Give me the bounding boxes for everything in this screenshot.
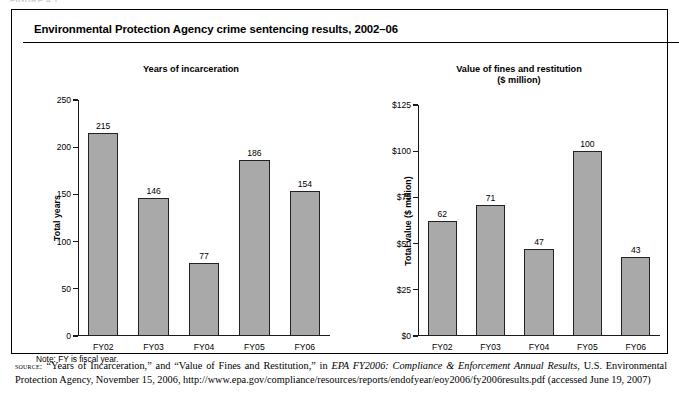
x-tick-label-FY06: FY06 <box>295 342 316 352</box>
figure-source: source: “Years of Incarceration,” and “V… <box>15 359 667 387</box>
bar-value-FY05: 100 <box>580 139 594 149</box>
y-tick-3 <box>413 197 418 198</box>
x-tick-label-FY04: FY04 <box>194 342 215 352</box>
chart-panel-fines: Value of fines and restitution ($ millio… <box>358 50 679 350</box>
bar-FY03 <box>476 205 505 336</box>
y-tick-label-5: $125 <box>392 100 411 110</box>
y-tick-label-0: 0 <box>66 331 71 341</box>
chart-title-left: Years of incarceration <box>26 64 356 75</box>
bar-FY06 <box>290 191 320 336</box>
x-tick-label-FY03: FY03 <box>480 342 501 352</box>
y-tick-0 <box>413 335 418 336</box>
y-axis-line-left <box>78 100 79 336</box>
chart-title-right: Value of fines and restitution ($ millio… <box>358 64 679 85</box>
x-tick-label-FY02: FY02 <box>432 342 453 352</box>
bar-value-FY06: 154 <box>298 179 312 189</box>
y-tick-1 <box>73 288 78 289</box>
y-tick-0 <box>73 335 78 336</box>
plot-area-right: Total value ($ million) $0$25$50$75$100$… <box>418 105 660 336</box>
bar-value-FY03: 71 <box>486 193 496 203</box>
y-tick-label-2: 100 <box>57 237 71 247</box>
y-axis-line-right <box>418 105 419 336</box>
bar-value-FY02: 215 <box>96 121 110 131</box>
bar-value-FY06: 43 <box>631 245 641 255</box>
bar-FY03 <box>138 198 168 336</box>
figure-box: Environmental Protection Agency crime se… <box>11 9 668 354</box>
y-tick-label-1: $25 <box>397 285 411 295</box>
bar-value-FY04: 77 <box>199 251 209 261</box>
y-tick-3 <box>73 194 78 195</box>
y-tick-label-1: 50 <box>61 284 71 294</box>
y-tick-4 <box>73 147 78 148</box>
y-tick-label-0: $0 <box>401 331 411 341</box>
x-tick-label-FY06: FY06 <box>626 342 647 352</box>
bar-FY04 <box>524 249 553 336</box>
source-italic-title: EPA FY2006: Compliance & Enforcement Ann… <box>331 360 577 371</box>
x-tick-label-FY03: FY03 <box>143 342 164 352</box>
bar-value-FY05: 186 <box>247 148 261 158</box>
bar-value-FY02: 62 <box>437 209 447 219</box>
y-tick-label-4: $100 <box>392 146 411 156</box>
bar-value-FY03: 146 <box>146 186 160 196</box>
bar-value-FY04: 47 <box>534 237 544 247</box>
y-tick-label-3: 150 <box>57 189 71 199</box>
y-tick-label-4: 200 <box>57 142 71 152</box>
y-tick-label-5: 250 <box>57 95 71 105</box>
y-tick-1 <box>413 289 418 290</box>
y-tick-label-2: $50 <box>397 239 411 249</box>
bar-FY05 <box>573 151 602 336</box>
y-tick-4 <box>413 151 418 152</box>
x-tick-label-FY04: FY04 <box>529 342 550 352</box>
y-tick-label-3: $75 <box>397 192 411 202</box>
y-tick-5 <box>413 104 418 105</box>
chart-panel-incarceration: Years of incarceration Total years 05010… <box>26 50 356 350</box>
title-divider <box>23 42 679 43</box>
plot-area-left: Total years 050100150200250215FY02146FY0… <box>78 100 330 336</box>
running-header: FIGURE 4.1 <box>10 0 59 2</box>
y-tick-2 <box>413 243 418 244</box>
x-tick-label-FY05: FY05 <box>577 342 598 352</box>
x-tick-label-FY05: FY05 <box>244 342 265 352</box>
x-tick-label-FY02: FY02 <box>93 342 114 352</box>
y-tick-5 <box>73 99 78 100</box>
y-axis-title-right: Total value ($ million) <box>403 176 413 265</box>
source-text: “Years of Incarceration,” and “Value of … <box>43 360 332 371</box>
y-tick-2 <box>73 241 78 242</box>
bar-FY04 <box>189 263 219 336</box>
bar-FY02 <box>88 133 118 336</box>
bar-FY06 <box>621 257 650 336</box>
y-axis-title-left: Total years <box>52 195 62 241</box>
bar-FY05 <box>239 160 269 336</box>
bar-FY02 <box>428 221 457 336</box>
figure-title: Environmental Protection Agency crime se… <box>34 23 398 35</box>
source-label: source: <box>15 361 43 371</box>
